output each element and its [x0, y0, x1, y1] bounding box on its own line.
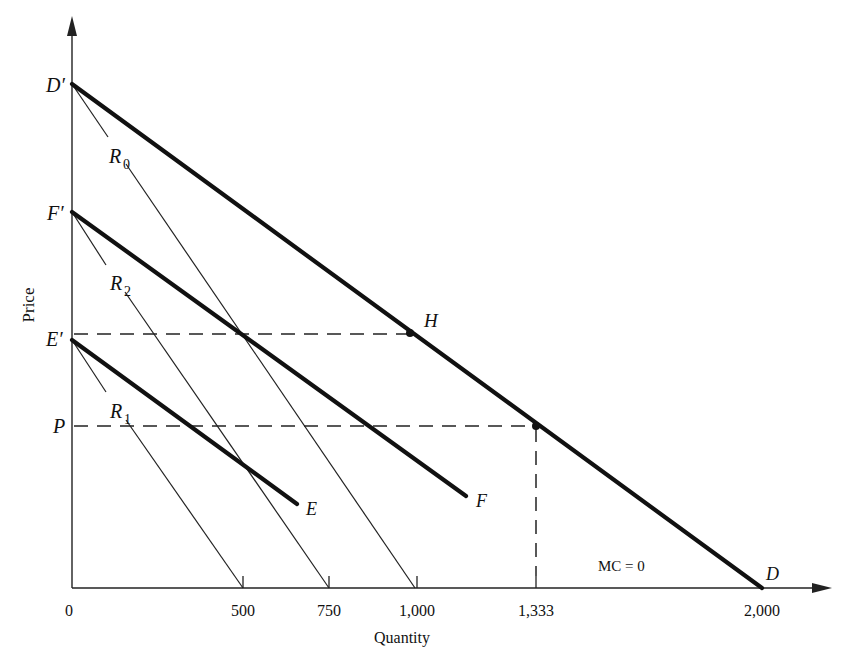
tick-label-1333: 1,333	[518, 602, 554, 619]
point-p-on-d	[532, 422, 540, 430]
demand-lines	[72, 84, 762, 588]
label-r0-text: R	[108, 145, 121, 167]
label-r1-sub: 1	[124, 412, 131, 427]
label-r0-sub: 0	[123, 157, 130, 172]
f-demand-line	[72, 212, 466, 496]
tick-label-500: 500	[231, 602, 255, 619]
label-r0: R 0	[108, 145, 130, 172]
r1-line-upper	[72, 340, 106, 392]
y-axis-arrow-icon	[67, 16, 77, 36]
r0-line-upper	[72, 84, 108, 137]
label-e-prime: E′	[45, 328, 63, 350]
label-r1: R 1	[109, 400, 131, 427]
d-demand-line	[72, 84, 762, 588]
axes	[67, 16, 832, 593]
label-d: D	[765, 564, 779, 584]
label-p: P	[52, 415, 65, 437]
label-r2-sub: 2	[124, 284, 131, 299]
tick-label-0: 0	[65, 602, 73, 619]
x-axis-title: Quantity	[374, 629, 430, 647]
r1-line-lower	[126, 420, 243, 588]
label-r2: R 2	[109, 272, 131, 299]
label-e: E	[305, 499, 317, 519]
label-r1-text: R	[109, 400, 122, 422]
label-h: H	[423, 310, 439, 331]
tick-label-1000: 1,000	[399, 602, 435, 619]
tick-label-2000: 2,000	[744, 602, 780, 619]
label-f-prime: F′	[46, 202, 64, 224]
tick-label-750: 750	[317, 602, 341, 619]
x-axis-arrow-icon	[812, 583, 832, 593]
demand-reaction-diagram: D′ F′ E′ P Price R 0 R 2 R 1 H E F D MC …	[0, 0, 846, 662]
label-d-prime: D′	[45, 74, 65, 96]
point-h	[406, 329, 414, 337]
label-mc: MC = 0	[598, 558, 645, 574]
x-ticks	[243, 576, 536, 588]
r2-line-lower	[125, 292, 329, 588]
label-r2-text: R	[109, 272, 122, 294]
r2-line-upper	[72, 212, 106, 265]
label-f: F	[475, 491, 488, 511]
y-axis-title: Price	[19, 288, 38, 323]
